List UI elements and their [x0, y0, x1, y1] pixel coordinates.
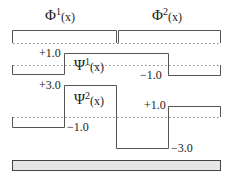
phi1-box	[13, 31, 117, 44]
phi1-title: Φ1(x)	[45, 6, 75, 24]
psi2-title: Ψ2(x)	[74, 90, 104, 108]
psi2-label-c: −3.0	[171, 141, 193, 155]
signal-bar	[13, 161, 221, 171]
psi1-high-label: +1.0	[39, 46, 61, 60]
haar-wavelet-diagram: Φ1(x) Φ2(x) +1.0 −1.0 Ψ1(x) +3.0 −1.0 −3…	[0, 0, 233, 179]
psi2-label-a: +3.0	[39, 78, 61, 92]
phi-boxes	[13, 31, 221, 44]
psi1-low-label: −1.0	[140, 68, 162, 82]
psi2-label-b: −1.0	[67, 120, 89, 134]
psi1-title: Ψ1(x)	[74, 56, 104, 74]
phi2-box	[119, 31, 221, 44]
phi2-title: Φ2(x)	[152, 6, 182, 24]
psi2-label-d: +1.0	[144, 98, 166, 112]
